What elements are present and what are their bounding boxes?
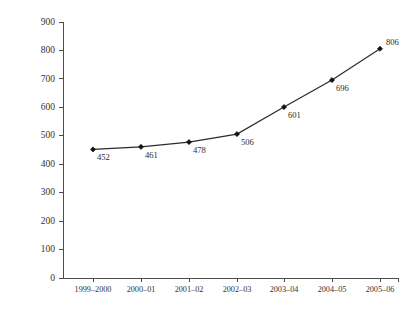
- x-axis-tick-label: 2000–01: [127, 285, 156, 294]
- x-axis-tick-label: 2005–06: [366, 285, 395, 294]
- x-axis-tick-label: 1999–2000: [75, 285, 112, 294]
- data-point-label: 478: [193, 145, 206, 155]
- x-axis-tick-label: 2003–04: [270, 285, 299, 294]
- line-chart: 0100200300400500600700800900 1999–200020…: [0, 0, 399, 317]
- data-point-label: 461: [145, 150, 158, 160]
- y-axis-tick-label: 700: [41, 74, 56, 84]
- data-point-labels: 452461478506601696806: [97, 37, 399, 163]
- data-point-label: 696: [336, 83, 350, 93]
- x-axis-tick-label: 2001–02: [175, 285, 204, 294]
- x-axis-tick-label: 2002–03: [223, 285, 252, 294]
- data-point-marker: [138, 144, 143, 149]
- data-point-label: 506: [241, 137, 255, 147]
- y-axis-tick-label: 500: [41, 130, 56, 140]
- data-point-label: 601: [288, 110, 301, 120]
- y-axis: 0100200300400500600700800900: [41, 17, 63, 283]
- y-axis-tick-label: 800: [41, 45, 56, 55]
- data-point-marker: [281, 104, 286, 109]
- data-point-label: 806: [386, 37, 399, 47]
- y-axis-tick-label: 100: [41, 244, 56, 254]
- y-axis-tick-label: 0: [50, 273, 55, 283]
- data-point-marker: [90, 147, 95, 152]
- data-point-marker: [234, 131, 239, 136]
- data-point-marker: [186, 139, 191, 144]
- data-point-markers: [90, 46, 382, 152]
- y-axis-tick-label: 400: [41, 159, 56, 169]
- y-axis-tick-label: 200: [41, 216, 56, 226]
- y-axis-tick-label: 300: [41, 187, 56, 197]
- data-point-label: 452: [97, 152, 110, 162]
- x-axis-tick-label: 2004–05: [318, 285, 347, 294]
- y-axis-tick-label: 900: [41, 17, 56, 27]
- y-axis-tick-label: 600: [41, 102, 56, 112]
- x-axis: 1999–20002000–012001–022002–032003–04200…: [63, 278, 398, 294]
- chart-canvas: 0100200300400500600700800900 1999–200020…: [0, 0, 399, 317]
